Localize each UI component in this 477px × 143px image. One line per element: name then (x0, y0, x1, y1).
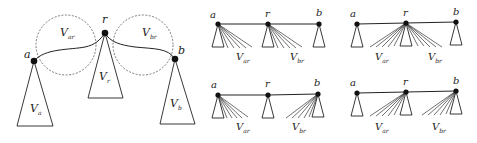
subtree-r (262, 95, 274, 118)
edge-r-b (406, 91, 456, 92)
edge-r-b (406, 22, 456, 23)
subtree-va (17, 61, 53, 126)
node-r (265, 21, 270, 26)
label-var: Var (236, 121, 251, 134)
panel-bottom-middle: a r b Var Vbr (211, 77, 324, 134)
subtree-a (351, 24, 363, 47)
label-b: b (453, 75, 459, 86)
label-a: a (350, 8, 356, 19)
label-a: a (211, 79, 217, 90)
main-diagram: a r b Var Vbr Va Vr Vb (17, 13, 195, 126)
label-var: Var (375, 121, 390, 134)
panel-bottom-right: a r b Var Vbr (350, 75, 462, 134)
label-vbr: Vbr (432, 121, 447, 134)
label-r: r (102, 13, 108, 26)
label-r: r (265, 8, 271, 19)
subtree-vb (160, 59, 195, 124)
panel-top-right: a r b Var Vbr (350, 6, 462, 64)
label-a: a (350, 77, 356, 88)
node-a (354, 21, 359, 26)
label-var: Var (60, 26, 76, 40)
label-a: a (24, 48, 31, 61)
subtree-b (450, 22, 462, 45)
edge-r-b (105, 33, 175, 59)
node-r (102, 30, 109, 37)
subtree-a (351, 93, 363, 116)
label-vbr: Vbr (142, 26, 158, 40)
label-r: r (403, 7, 409, 18)
node-r (403, 89, 408, 94)
node-r (265, 92, 270, 97)
diagram-canvas: a r b Var Vbr Va Vr Vb (0, 0, 477, 143)
label-var: Var (375, 51, 390, 64)
label-vbr: Vbr (292, 121, 307, 134)
node-r (403, 20, 408, 25)
label-b: b (453, 6, 459, 17)
label-r: r (265, 78, 271, 89)
region-circle-var (36, 15, 96, 75)
label-a: a (210, 9, 216, 20)
node-a (31, 58, 38, 65)
node-b (316, 21, 321, 26)
label-b: b (178, 44, 185, 57)
subtree-b (313, 24, 325, 47)
label-r: r (403, 76, 409, 87)
node-a (354, 90, 359, 95)
node-a (215, 92, 220, 97)
label-b: b (314, 77, 320, 88)
edge-a-r (357, 92, 406, 93)
label-vbr: Vbr (290, 51, 305, 64)
panel-top-middle: a r b Var Vbr (210, 7, 325, 64)
node-a (215, 21, 220, 26)
edge-a-r (357, 23, 406, 24)
node-b (453, 19, 458, 24)
label-vbr: Vbr (428, 51, 443, 64)
node-b (315, 91, 320, 96)
label-b: b (316, 7, 322, 18)
node-b (453, 88, 458, 93)
edge-r-b (268, 94, 318, 95)
label-var: Var (236, 51, 251, 64)
